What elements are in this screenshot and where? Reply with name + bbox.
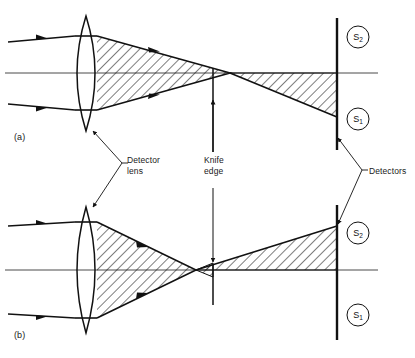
panel-b: S2 S1 xyxy=(5,163,378,340)
knife-edge-label-line2: edge xyxy=(204,166,223,176)
panel-a: S2 S1 xyxy=(5,16,378,170)
knife-edge-label-line1: Knife xyxy=(204,155,224,165)
panel-b-tag: (b) xyxy=(14,330,25,341)
detector-marker-s1-a: S1 xyxy=(347,108,369,130)
svg-text:S1: S1 xyxy=(353,114,363,125)
leader-detector-lens-b xyxy=(93,163,122,207)
cone-arrow-bottom-a xyxy=(148,94,160,100)
cone-arrow-top-a xyxy=(148,47,160,53)
cone-arrow-top-b xyxy=(136,241,148,248)
svg-text:S1: S1 xyxy=(353,310,363,321)
panel-a-tag: (a) xyxy=(14,132,25,143)
svg-text:S2: S2 xyxy=(353,32,363,43)
optics-diagram: S2 S1 xyxy=(0,0,415,358)
detector-marker-s1-b: S1 xyxy=(347,304,369,326)
cone-arrow-bottom-b xyxy=(136,293,148,300)
leader-detectors xyxy=(338,138,362,170)
ray-arrow-top-b xyxy=(36,220,48,225)
detector-lens-label-line1: Detector xyxy=(127,155,160,165)
knife-edge-label: Knife edge xyxy=(204,155,224,177)
beam-cone-a xyxy=(97,36,230,110)
detector-lens-label-line2: lens xyxy=(127,166,143,176)
beam-cone-b xyxy=(97,222,196,318)
detectors-label: Detectors xyxy=(369,166,406,177)
detector-marker-s2-b: S2 xyxy=(347,222,369,244)
detector-lens-label: Detector lens xyxy=(127,155,160,177)
svg-text:S2: S2 xyxy=(353,228,363,239)
leader-detector-lens-a xyxy=(93,131,122,163)
leader-detectors-b xyxy=(338,170,362,224)
detector-marker-s2-a: S2 xyxy=(347,26,369,48)
